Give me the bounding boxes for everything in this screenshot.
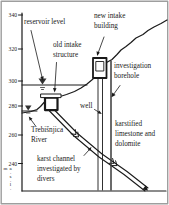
borehole-leader bbox=[114, 86, 121, 95]
tick-label-260: 260 bbox=[3, 132, 17, 138]
karst-channel-label: karst channel investigated by divers bbox=[37, 154, 95, 184]
tick-label-320: 320 bbox=[3, 46, 17, 52]
reservoir-level-leader bbox=[31, 31, 42, 78]
axis-unit-label: m a.s.l. bbox=[3, 166, 10, 196]
old-intake-label: old intake structure bbox=[53, 40, 93, 60]
river-label: Trebišnjica River bbox=[31, 125, 75, 145]
tick-label-280: 280 bbox=[3, 103, 17, 109]
new-intake-building bbox=[93, 58, 107, 78]
terrain-line bbox=[59, 79, 94, 97]
investigation-borehole-label: investigation borehole bbox=[114, 61, 166, 81]
karstified-limestone-label: karstified limestone and dolomite bbox=[115, 119, 163, 149]
well-label: well bbox=[80, 101, 100, 111]
old-intake-structure bbox=[41, 94, 61, 110]
tick-label-300: 300 bbox=[3, 78, 17, 84]
reservoir-level-label: reservoir level bbox=[24, 17, 94, 27]
tick-label-340: 340 bbox=[3, 12, 17, 18]
well-line bbox=[98, 78, 103, 190]
new-intake-label: new intake building bbox=[94, 11, 138, 31]
cross-section-figure: 340 320 300 280 260 240 m a.s.l. reservo… bbox=[0, 0, 169, 205]
new-intake-leader bbox=[98, 37, 104, 53]
